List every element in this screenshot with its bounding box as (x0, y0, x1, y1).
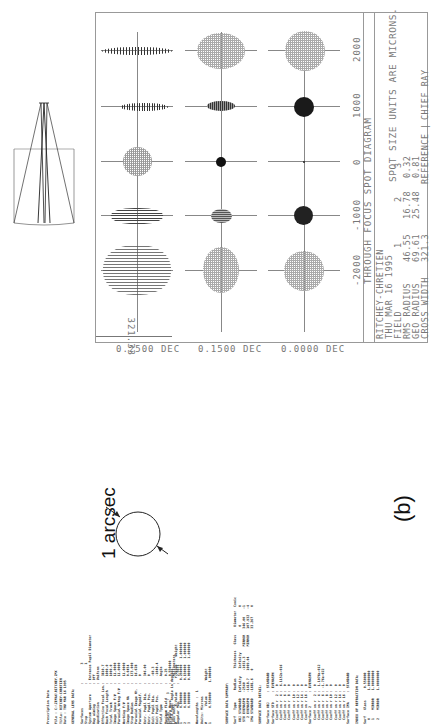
spot-diagram-panel: 321.33 0.2500 DEC 0.1500 DEC 0.0000 DEC … (95, 12, 428, 343)
arcsec-circle-diagram (104, 499, 174, 569)
prescription-surface-summary: SURFACE DATA SUMMARY: Surf Type Radius T… (225, 597, 254, 724)
diagram-title: THROUGH FOCUS SPOT DIAGRAM (363, 117, 373, 284)
cross-width-value: 321.3 (420, 234, 430, 262)
spot-f3-m2000 (284, 251, 324, 291)
spot-f2-p2000 (197, 33, 245, 69)
spot-f2-m2000 (203, 247, 239, 293)
reference-divider: | (420, 123, 430, 129)
prescription-surface-detail: SURFACE DATA DETAIL: Surface OBJ : STAND… (258, 664, 380, 724)
prescription-fields-wavelengths: Fields : 3 Field Type: Angle in degrees … (166, 643, 212, 724)
focus-tick: 1000 (352, 92, 362, 118)
reference-label: REFERENCE (420, 133, 430, 184)
spot-f2-p1000 (207, 101, 235, 111)
spot-f2-0 (216, 157, 226, 167)
focus-tick: -2000 (352, 254, 362, 286)
spot-f3-m1000 (294, 206, 313, 225)
reference-value: CHIEF RAY (420, 69, 430, 120)
spot-f3-0 (303, 161, 305, 163)
spot-f1-m2000 (103, 245, 171, 295)
spot-f3-p1000 (294, 97, 314, 117)
rotated-figure-page: 321.33 0.2500 DEC 0.1500 DEC 0.0000 DEC … (0, 0, 440, 727)
spot-f2-m1000 (211, 209, 232, 223)
focus-tick: 2000 (352, 36, 362, 62)
spot-f1-p1000 (120, 103, 168, 111)
info-panel: RITCHEY-CHRETIEN THU MAR 16 1995 FIELD R… (373, 13, 427, 342)
prescription-general-data: Prescription Data File : C:\ZEMAX\RITCHE… (46, 635, 181, 724)
spot-f3-p2000 (285, 31, 325, 71)
spot-f1-p2000 (102, 47, 172, 55)
geo-value-2: 25.48 (411, 191, 421, 219)
focus-tick: 0 (352, 159, 362, 165)
cross-row-label: CROSS WIDTH (420, 277, 430, 339)
units-note: SPOT SIZE UNITS ARE MICRONS. (387, 8, 398, 182)
figure-label: (b) (390, 495, 416, 522)
spot-f1-0 (123, 147, 152, 176)
field-label-1: 0.2500 DEC (116, 344, 180, 354)
field-label-2: 0.1500 DEC (198, 344, 262, 354)
field-label-3: 0.0000 DEC (281, 344, 345, 354)
spot-f1-m1000 (111, 208, 163, 224)
raytrace-layout-diagram (8, 97, 80, 227)
focus-tick: -1000 (352, 199, 362, 231)
